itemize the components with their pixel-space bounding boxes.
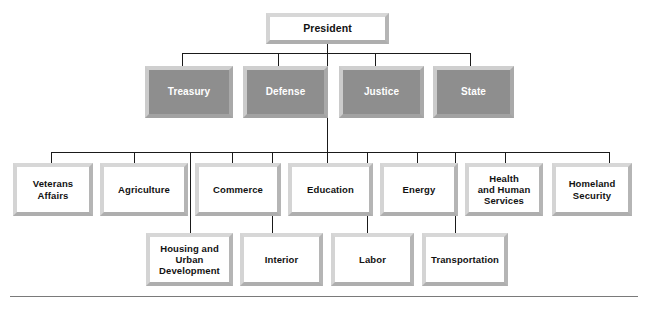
connector-drop-hud <box>190 152 191 233</box>
node-label-housing-and-urban-development: Housing and Urban Development <box>156 243 223 277</box>
node-label-labor: Labor <box>356 254 389 265</box>
node-health-and-human-services[interactable]: Health and Human Services <box>465 163 543 216</box>
node-label-agriculture: Agriculture <box>115 184 173 195</box>
node-label-defense: Defense <box>263 86 309 98</box>
node-label-commerce: Commerce <box>210 184 266 195</box>
node-labor[interactable]: Labor <box>331 233 414 286</box>
connector-drop-state <box>470 53 471 66</box>
footer-divider <box>10 296 638 297</box>
connector-drop-commerce <box>232 152 233 163</box>
node-interior[interactable]: Interior <box>240 233 323 286</box>
node-label-president: President <box>300 22 355 34</box>
connector-drop-agriculture <box>134 152 135 163</box>
node-label-health-and-human-services: Health and Human Services <box>475 173 534 207</box>
node-president[interactable]: President <box>266 13 389 44</box>
node-label-justice: Justice <box>361 86 402 98</box>
node-label-homeland-security: Homeland Security <box>566 178 619 200</box>
connector-drop-justice <box>375 53 376 66</box>
connector-drop-education <box>327 152 328 163</box>
connector-drop-veterans <box>51 152 52 163</box>
node-commerce[interactable]: Commerce <box>195 163 281 216</box>
node-housing-and-urban-development[interactable]: Housing and Urban Development <box>146 233 233 286</box>
node-label-transportation: Transportation <box>428 254 502 265</box>
node-label-education: Education <box>304 184 357 195</box>
node-label-state: State <box>458 86 489 98</box>
node-veterans-affairs[interactable]: Veterans Affairs <box>13 163 93 216</box>
node-education[interactable]: Education <box>288 163 373 216</box>
node-label-energy: Energy <box>400 184 439 195</box>
node-label-interior: Interior <box>262 254 302 265</box>
node-label-treasury: Treasury <box>165 86 214 98</box>
connector-drop-defense <box>278 53 279 66</box>
node-energy[interactable]: Energy <box>380 163 458 216</box>
node-treasury[interactable]: Treasury <box>145 66 233 118</box>
node-transportation[interactable]: Transportation <box>422 233 508 286</box>
node-state[interactable]: State <box>433 66 514 118</box>
org-chart: President Treasury Defense Justice State… <box>0 0 647 311</box>
node-defense[interactable]: Defense <box>243 66 328 118</box>
connector-drop-treasury <box>182 53 183 66</box>
connector-drop-energy <box>417 152 418 163</box>
connector-drop-hhs <box>505 152 506 163</box>
node-justice[interactable]: Justice <box>339 66 424 118</box>
node-agriculture[interactable]: Agriculture <box>100 163 188 216</box>
node-homeland-security[interactable]: Homeland Security <box>552 163 632 216</box>
node-label-veterans-affairs: Veterans Affairs <box>30 178 76 200</box>
connector-drop-homeland <box>609 152 610 163</box>
